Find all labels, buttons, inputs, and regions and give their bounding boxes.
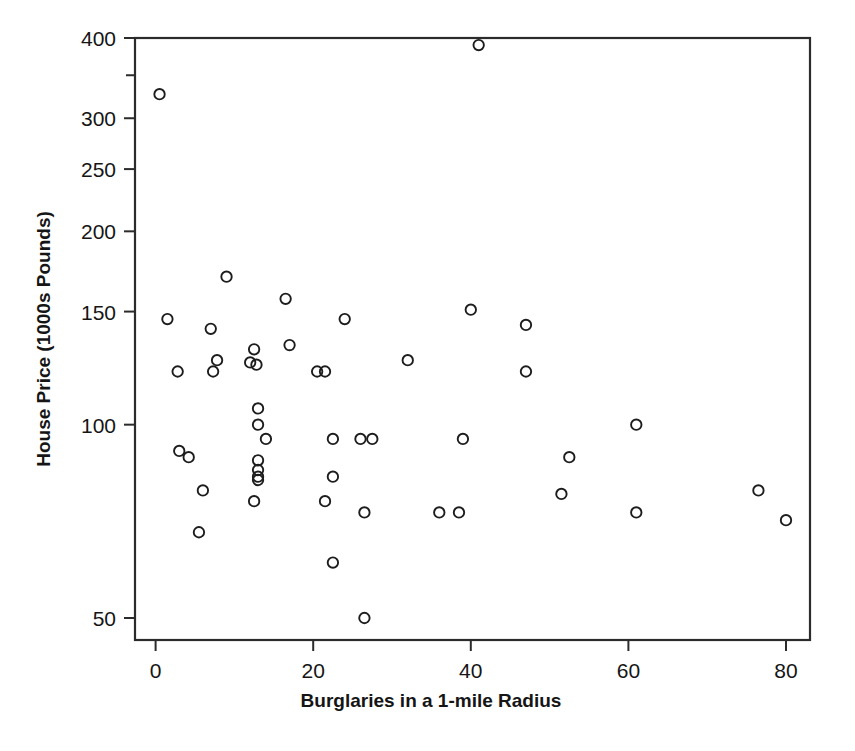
data-point [212,355,222,365]
data-point [367,434,377,444]
scatter-plot-figure: 020406080 50100150200250300400 Burglarie… [0,0,855,751]
data-point [280,294,290,304]
data-point [473,40,483,50]
data-point [781,515,791,525]
data-point [556,489,566,499]
data-point [172,366,182,376]
data-point [631,507,641,517]
y-axis-tick-labels: 50100150200250300400 [81,27,116,630]
data-point [328,434,338,444]
data-point [261,434,271,444]
data-point [245,357,255,367]
plot-frame [135,38,810,640]
data-point [454,507,464,517]
data-point [154,89,164,99]
y-tick-label: 200 [81,220,116,243]
data-point [564,452,574,462]
y-tick-label: 400 [81,27,116,50]
data-point [466,305,476,315]
data-point [340,314,350,324]
data-point [521,320,531,330]
y-tick-label: 250 [81,158,116,181]
data-point [251,359,261,369]
data-point [284,340,294,350]
y-tick-label: 100 [81,414,116,437]
x-tick-label: 0 [150,659,162,682]
data-point [249,496,259,506]
y-tick-label: 300 [81,107,116,130]
data-point [253,419,263,429]
x-tick-label: 40 [459,659,482,682]
x-tick-label: 80 [774,659,797,682]
data-point [359,613,369,623]
x-axis-tick-labels: 020406080 [150,659,798,682]
x-axis-ticks [156,640,786,651]
data-point [403,355,413,365]
y-axis-ticks [124,38,135,618]
data-point [434,507,444,517]
x-tick-label: 20 [302,659,325,682]
data-point [328,557,338,567]
data-point [521,366,531,376]
data-point [249,344,259,354]
y-axis-title: House Price (1000s Pounds) [33,211,54,467]
data-point [355,434,365,444]
data-point [458,434,468,444]
data-point [206,324,216,334]
x-tick-label: 60 [617,659,640,682]
data-point [328,471,338,481]
data-point [174,446,184,456]
data-point [320,366,330,376]
data-point [221,271,231,281]
data-point [320,496,330,506]
data-point [253,403,263,413]
data-point [198,485,208,495]
data-point [753,485,763,495]
y-tick-label: 50 [93,607,116,630]
data-point [359,507,369,517]
y-tick-label: 150 [81,301,116,324]
data-point [194,527,204,537]
data-point [162,314,172,324]
x-axis-title: Burglaries in a 1-mile Radius [301,690,562,711]
data-point [631,419,641,429]
data-points-group [154,40,791,623]
chart-canvas: 020406080 50100150200250300400 Burglarie… [0,0,855,751]
data-point [208,366,218,376]
data-point [184,452,194,462]
